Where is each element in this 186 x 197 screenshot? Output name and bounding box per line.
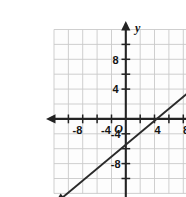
x-tick-label-neg8: -8 [73,124,83,136]
coordinate-plane-figure: -8 -4 4 8 8 4 -4 -8 O y x [40,16,186,197]
y-tick-label-8: 8 [112,54,118,66]
y-tick-label-4: 4 [112,83,119,95]
coordinate-plane-svg: -8 -4 4 8 8 4 -4 -8 O y x [40,16,186,197]
screenshot-root: -8 -4 4 8 8 4 -4 -8 O y x [0,0,186,197]
x-tick-label-8: 8 [183,124,186,136]
origin-label: O [114,122,123,136]
x-tick-label-4: 4 [154,124,161,136]
y-tick-label-neg8: -8 [111,158,121,170]
y-axis-arrow-up [121,21,130,31]
y-axis-label: y [133,21,141,35]
x-axis-arrow-left [46,114,56,123]
